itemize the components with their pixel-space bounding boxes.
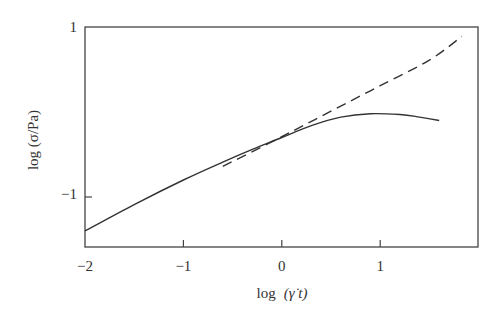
x-tick-label: −1 <box>175 258 191 274</box>
x-tick-label: 0 <box>278 258 286 274</box>
solid-curve <box>85 114 439 231</box>
x-axis-ticks: −2−101 <box>77 240 384 274</box>
y-axis-ticks: 1−1 <box>61 19 92 202</box>
series-group <box>85 36 462 231</box>
x-axis-label: log(γ̇ t) <box>257 285 308 302</box>
x-tick-label: 1 <box>376 258 384 274</box>
x-tick-label: −2 <box>77 258 93 274</box>
y-tick-label: 1 <box>70 19 78 35</box>
y-axis-label: log (σ/Pa) <box>25 110 42 170</box>
y-tick-label: −1 <box>61 186 77 202</box>
chart: −2−101 1−1 log(γ̇ t) log (σ/Pa) <box>0 0 499 315</box>
